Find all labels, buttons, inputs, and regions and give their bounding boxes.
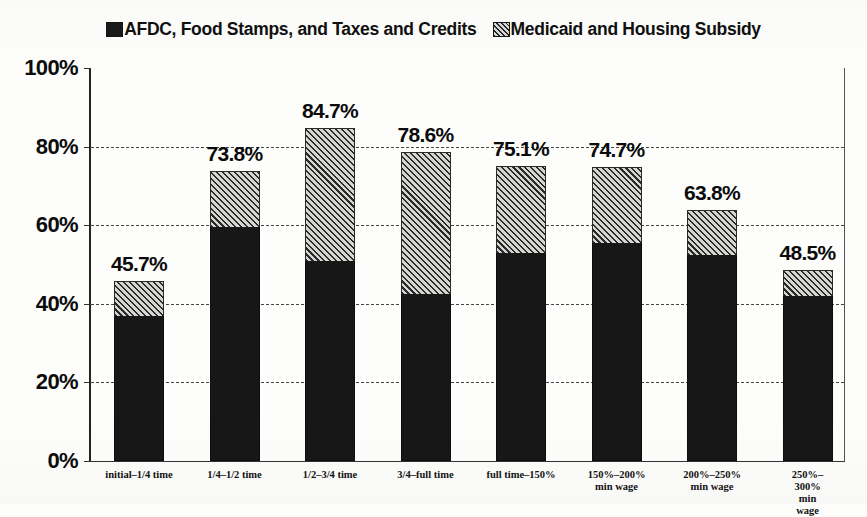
- legend-label-solid: AFDC, Food Stamps, and Taxes and Credits: [124, 19, 476, 40]
- bar-segment-medicaid-housing: [305, 128, 355, 260]
- y-axis-tick-mark: [84, 147, 91, 148]
- legend-entry-hatched: Medicaid and Housing Subsidy: [493, 19, 761, 40]
- y-axis-tick-mark: [84, 382, 91, 383]
- y-axis-label-40pct: 40%: [36, 291, 78, 317]
- legend-label-hatched: Medicaid and Housing Subsidy: [511, 19, 761, 40]
- bar-segment-afdc-foodstamps-taxes: [687, 255, 737, 461]
- bar-7: [687, 210, 737, 461]
- x-axis-label-1: initial–1/4 time: [105, 469, 172, 481]
- bar-segment-afdc-foodstamps-taxes: [401, 294, 451, 461]
- bar-segment-afdc-foodstamps-taxes: [783, 296, 833, 461]
- bar-value-label-3: 84.7%: [302, 99, 358, 123]
- bar-segment-afdc-foodstamps-taxes: [496, 253, 546, 461]
- y-axis-tick-labels: 0%20%40%60%80%100%: [0, 0, 84, 504]
- x-axis-label-3: 1/2–3/4 time: [303, 469, 358, 481]
- y-axis-label-60pct: 60%: [36, 212, 78, 238]
- bar-segment-medicaid-housing: [496, 166, 546, 253]
- bar-segment-medicaid-housing: [401, 152, 451, 294]
- y-axis-label-20pct: 20%: [36, 369, 78, 395]
- x-axis-label-6: 150%–200% min wage: [588, 469, 646, 493]
- bar-segment-afdc-foodstamps-taxes: [210, 227, 260, 461]
- bar-segment-medicaid-housing: [114, 281, 164, 315]
- y-axis-tick-mark: [84, 304, 91, 305]
- bar-value-label-5: 75.1%: [493, 137, 549, 161]
- bar-value-label-8: 48.5%: [779, 241, 835, 265]
- bar-segment-afdc-foodstamps-taxes: [305, 261, 355, 461]
- gridline-80: [91, 147, 844, 148]
- bar-segment-medicaid-housing: [687, 210, 737, 254]
- x-axis-label-7: 200%–250% min wage: [683, 469, 741, 493]
- bar-6: [592, 167, 642, 461]
- legend-swatch-hatched-icon: [493, 22, 510, 37]
- x-axis-label-4: 3/4–full time: [397, 469, 453, 481]
- plot-area: 45.7%initial–1/4 time73.8%1/4–1/2 time84…: [89, 68, 845, 462]
- y-axis-label-100pct: 100%: [24, 55, 78, 81]
- x-axis-label-5: full time–150%: [486, 469, 555, 481]
- bar-value-label-4: 78.6%: [397, 123, 453, 147]
- y-axis-label-80pct: 80%: [36, 134, 78, 160]
- bar-segment-afdc-foodstamps-taxes: [114, 316, 164, 461]
- bar-3: [305, 128, 355, 461]
- y-axis-tick-mark: [84, 225, 91, 226]
- bar-value-label-1: 45.7%: [111, 252, 167, 276]
- legend-swatch-solid-icon: [106, 22, 123, 37]
- bar-segment-medicaid-housing: [783, 270, 833, 296]
- y-axis-tick-mark: [84, 68, 91, 69]
- bar-value-label-2: 73.8%: [206, 142, 262, 166]
- x-axis-label-2: 1/4–1/2 time: [207, 469, 262, 481]
- chart-legend: AFDC, Food Stamps, and Taxes and Credits…: [0, 14, 867, 44]
- y-axis-tick-mark: [84, 461, 91, 462]
- bar-2: [210, 171, 260, 461]
- bar-segment-medicaid-housing: [592, 167, 642, 242]
- bar-5: [496, 166, 546, 461]
- bar-segment-afdc-foodstamps-taxes: [592, 243, 642, 461]
- y-axis-label-0pct: 0%: [47, 448, 78, 474]
- bar-value-label-6: 74.7%: [588, 138, 644, 162]
- bar-8: [783, 270, 833, 461]
- legend-entry-solid: AFDC, Food Stamps, and Taxes and Credits: [106, 19, 476, 40]
- bar-4: [401, 152, 451, 461]
- bar-value-label-7: 63.8%: [684, 181, 740, 205]
- x-axis-label-8: 250%–300% min wage: [789, 469, 826, 517]
- bar-1: [114, 281, 164, 461]
- bar-segment-medicaid-housing: [210, 171, 260, 227]
